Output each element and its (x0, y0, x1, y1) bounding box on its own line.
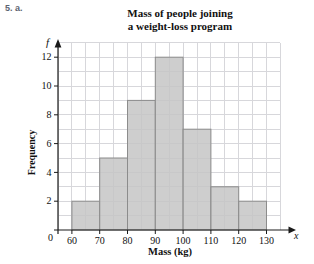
histogram-bar (211, 187, 239, 230)
histogram-bar (155, 57, 183, 230)
x-tick-label: 90 (150, 235, 160, 246)
histogram-bar (128, 100, 156, 230)
y-axis-variable-symbol: f (46, 36, 49, 48)
x-tick-label: 100 (176, 235, 191, 246)
x-tick-label: 110 (204, 235, 219, 246)
origin-label: 0 (48, 232, 53, 243)
x-tick-label: 70 (95, 235, 105, 246)
y-axis-label: Frequency (26, 93, 39, 213)
y-tick-label: 2 (47, 195, 52, 206)
x-tick-label: 80 (123, 235, 133, 246)
x-tick-label: 130 (259, 235, 274, 246)
x-axis-label: Mass (kg) (110, 246, 230, 257)
histogram-bar (183, 129, 211, 230)
histogram-bar (100, 158, 128, 230)
textbook-figure: 5. a. Mass of people joining a weight-lo… (0, 0, 314, 264)
y-tick-label: 4 (47, 167, 52, 178)
x-tick-label: 120 (231, 235, 246, 246)
y-tick-label: 12 (42, 51, 52, 62)
y-tick-label: 10 (42, 80, 52, 91)
x-tick-label: 60 (67, 235, 77, 246)
x-axis-variable-symbol: x (294, 230, 298, 241)
histogram-bar (72, 201, 100, 230)
histogram-bar (239, 201, 267, 230)
y-tick-label: 8 (47, 109, 52, 120)
y-tick-label: 6 (47, 138, 52, 149)
